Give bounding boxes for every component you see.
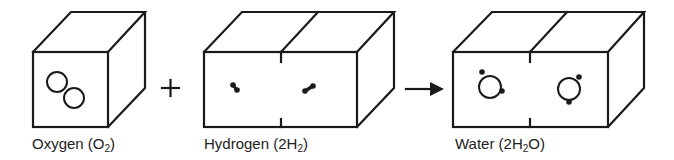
water-molecule-2 xyxy=(558,74,582,105)
hydrogen-label-end: ) xyxy=(303,135,308,152)
water-label-end: O) xyxy=(528,135,545,152)
water-molecule-1 xyxy=(479,69,505,98)
oxygen-atom-2 xyxy=(64,88,84,108)
water-molecules xyxy=(479,69,582,105)
arrow-right-icon xyxy=(406,82,444,96)
water-label: Water (2H2O) xyxy=(455,136,545,154)
hydrogen-molecule-1 xyxy=(230,82,240,93)
hydrogen-molecule-2 xyxy=(302,83,316,94)
hydrogen-label: Hydrogen (2H2) xyxy=(204,136,308,154)
oxygen-molecule xyxy=(47,72,84,108)
oxygen-label: Oxygen (O2) xyxy=(32,136,115,154)
hydrogen-molecules xyxy=(230,82,316,94)
oxygen-label-end: ) xyxy=(110,135,115,152)
hydrogen-label-text: Hydrogen (2H xyxy=(204,135,297,152)
oxygen-atom-1 xyxy=(47,72,67,92)
plus-icon xyxy=(162,80,179,96)
hydrogen-box xyxy=(204,12,394,127)
oxygen-box xyxy=(33,12,145,127)
water-label-text: Water (2H xyxy=(455,135,523,152)
oxygen-label-text: Oxygen (O xyxy=(32,135,105,152)
